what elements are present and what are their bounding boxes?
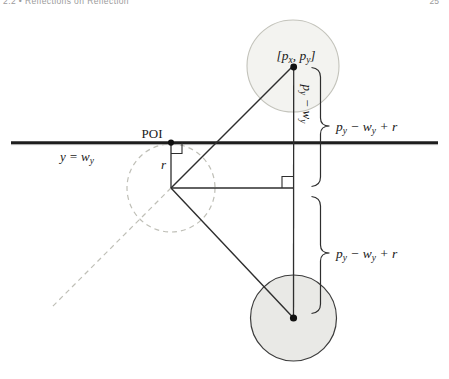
lower-brace-label: py − wy + r [335,246,398,263]
reflected-point-dot [290,314,297,321]
poi-dot [168,140,174,146]
source-point-label: [px, py] [276,48,315,65]
right-angle-marker-foot [282,177,294,189]
dashed-ray [51,188,171,308]
book-page: 2.2 • Reflections on Reflection 25 [px, … [0,0,449,379]
radius-label: r [161,157,167,172]
center-to-reflected-line [171,188,294,318]
poi-label: POI [142,126,163,141]
vertical-distance-label: py − wy [298,84,315,125]
surface-equation-label: y = wy [58,149,95,166]
reflection-diagram: [px, py] POI y = wy r py − wy py − wy + … [0,0,449,379]
upper-brace-label: py − wy + r [335,119,398,136]
center-to-source-line [171,66,293,188]
